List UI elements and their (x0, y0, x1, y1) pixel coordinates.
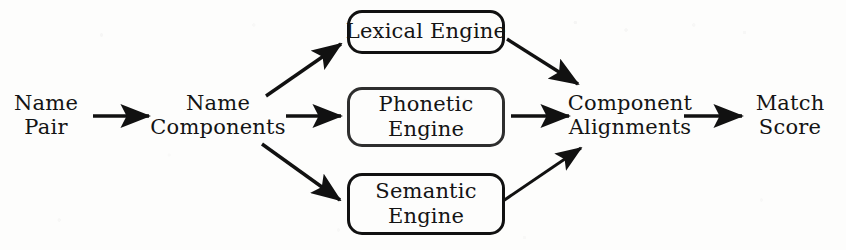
box-phonetic-engine-text: Phonetic Engine (379, 92, 474, 142)
box-semantic-engine: Semantic Engine (347, 173, 505, 235)
node-name-pair: Name Pair (14, 91, 78, 140)
node-name-components-line2: Components (150, 115, 285, 139)
node-component-alignments-line2: Alignments (568, 115, 692, 139)
edge-lexical-to-alignments (507, 39, 578, 84)
box-semantic-engine-line1: Semantic (375, 179, 476, 204)
box-phonetic-engine: Phonetic Engine (347, 87, 505, 147)
node-match-score: Match Score (756, 91, 825, 140)
box-lexical-engine: Lexical Engine (347, 10, 505, 54)
edge-components-to-semantic (262, 144, 340, 200)
box-semantic-engine-line2: Engine (375, 204, 476, 229)
box-phonetic-engine-line1: Phonetic (379, 92, 474, 117)
edge-semantic-to-alignments (503, 148, 581, 201)
node-match-score-line2: Score (756, 115, 825, 139)
node-name-pair-line1: Name (14, 91, 78, 115)
box-semantic-engine-text: Semantic Engine (375, 179, 476, 229)
edge-components-to-lexical (266, 44, 341, 96)
node-component-alignments-line1: Component (568, 91, 692, 115)
diagram-canvas: Name Pair Name Components Component Alig… (0, 0, 846, 250)
node-match-score-line1: Match (756, 91, 825, 115)
box-lexical-engine-line1: Lexical Engine (346, 19, 506, 44)
node-name-pair-line2: Pair (14, 115, 78, 139)
node-name-components-line1: Name (150, 91, 285, 115)
node-component-alignments: Component Alignments (568, 91, 692, 140)
box-lexical-engine-text: Lexical Engine (346, 19, 506, 44)
node-name-components: Name Components (150, 91, 285, 140)
box-phonetic-engine-line2: Engine (379, 117, 474, 142)
